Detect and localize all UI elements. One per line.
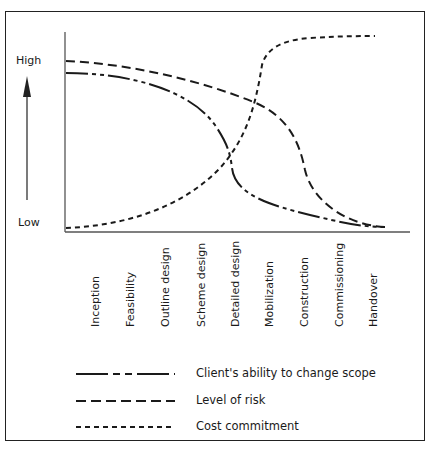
legend-swatches <box>76 374 175 427</box>
legend-label-client: Client's ability to change scope <box>196 366 376 380</box>
x-label-mobilization: Mobilization <box>263 261 276 327</box>
x-label-handover: Handover <box>367 274 380 328</box>
x-label-commissioning: Commissioning <box>333 243 346 327</box>
x-label-detailed-design: Detailed design <box>229 241 242 327</box>
series-client-ability <box>66 73 385 227</box>
y-label-high: High <box>16 54 41 67</box>
x-label-feasibility: Feasibility <box>124 272 137 327</box>
x-label-outline-design: Outline design <box>159 247 172 327</box>
chart-plot <box>0 0 433 451</box>
legend-label-cost: Cost commitment <box>196 419 299 433</box>
x-label-construction: Construction <box>298 257 311 327</box>
legend-label-risk: Level of risk <box>196 393 265 407</box>
y-label-low: Low <box>18 216 40 229</box>
x-label-inception: Inception <box>89 276 102 327</box>
x-label-scheme-design: Scheme design <box>195 243 208 327</box>
y-arrow-head-icon <box>23 76 31 97</box>
